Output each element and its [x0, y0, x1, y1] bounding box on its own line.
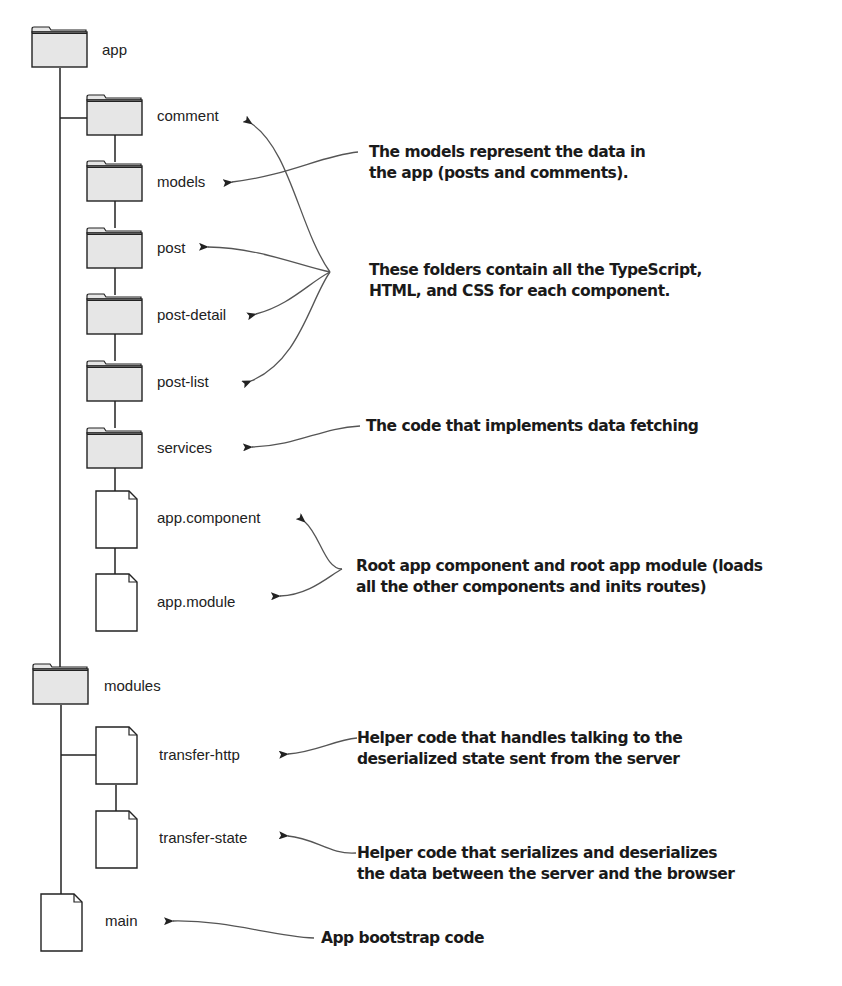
tree-node-label: transfer-state	[159, 829, 247, 847]
callout-line: deserialized state sent from the server	[357, 749, 682, 770]
folder-icon	[87, 95, 142, 135]
callout-services: The code that implements data fetching	[366, 416, 698, 437]
tree-node-label: transfer-http	[159, 746, 240, 764]
folder-icon	[87, 428, 142, 468]
callout-line: all the other components and inits route…	[356, 577, 762, 598]
tree-node-label: comment	[157, 107, 219, 125]
callout-transfer-http: Helper code that handles talking to the …	[357, 728, 682, 770]
callout-line: App bootstrap code	[321, 928, 484, 949]
tree-node-label: post	[157, 239, 185, 257]
tree-node-label: app.component	[157, 509, 260, 527]
folder-icon	[87, 228, 142, 268]
folder-icon	[87, 361, 142, 401]
tree-node-label: app	[102, 41, 127, 59]
tree-node-label: models	[157, 173, 205, 191]
callout-components: These folders contain all the TypeScript…	[369, 260, 702, 302]
callout-line: the app (posts and comments).	[369, 163, 645, 184]
callout-line: HTML, and CSS for each component.	[369, 281, 702, 302]
tree-node-label: post-detail	[157, 306, 226, 324]
callout-line: Helper code that handles talking to the	[357, 728, 682, 749]
callout-root-app: Root app component and root app module (…	[356, 556, 762, 598]
tree-node-label: main	[105, 912, 138, 930]
tree-node-label: app.module	[157, 593, 235, 611]
file-icon	[96, 491, 137, 548]
folder-icon	[87, 161, 142, 201]
callout-line: These folders contain all the TypeScript…	[369, 260, 702, 281]
folder-icon	[87, 294, 142, 334]
callout-line: the data between the server and the brow…	[357, 864, 734, 885]
file-icon	[96, 574, 137, 631]
tree-node-label: modules	[104, 677, 161, 695]
callout-line: Helper code that serializes and deserial…	[357, 843, 734, 864]
file-icon	[96, 727, 137, 784]
callout-main: App bootstrap code	[321, 928, 484, 949]
callout-models: The models represent the data in the app…	[369, 142, 645, 184]
callout-line: The code that implements data fetching	[366, 416, 698, 437]
tree-node-label: post-list	[157, 373, 209, 391]
file-icon	[96, 811, 137, 868]
file-icon	[41, 894, 82, 951]
callout-transfer-state: Helper code that serializes and deserial…	[357, 843, 734, 885]
folder-icon	[33, 664, 88, 704]
tree-node-label: services	[157, 439, 212, 457]
folder-icon	[32, 27, 87, 67]
file-tree-diagram: app comment models post post-detail post…	[0, 0, 842, 986]
callout-line: Root app component and root app module (…	[356, 556, 762, 577]
callout-line: The models represent the data in	[369, 142, 645, 163]
